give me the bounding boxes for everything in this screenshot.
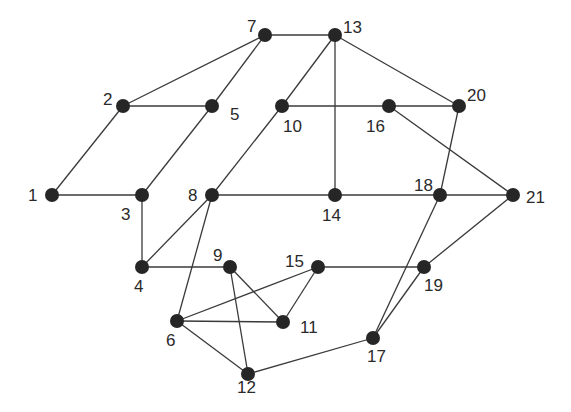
node-6 [170, 314, 184, 328]
edge-10-13 [282, 35, 335, 106]
node-label-21: 21 [526, 188, 545, 207]
edge-6-11 [177, 321, 283, 322]
node-label-12: 12 [237, 378, 256, 397]
node-label-1: 1 [28, 186, 37, 205]
node-7 [258, 28, 272, 42]
node-21 [506, 188, 520, 202]
node-8 [205, 188, 219, 202]
nodes-layer [45, 28, 520, 381]
edge-18-20 [440, 106, 459, 195]
edge-15-6 [177, 267, 318, 321]
node-4 [135, 260, 149, 274]
node-label-3: 3 [121, 205, 130, 224]
node-1 [45, 188, 59, 202]
node-18 [433, 188, 447, 202]
node-label-8: 8 [188, 186, 197, 205]
node-label-4: 4 [134, 277, 143, 296]
node-label-18: 18 [414, 176, 433, 195]
node-label-11: 11 [300, 318, 318, 337]
node-label-17: 17 [367, 347, 386, 366]
node-19 [417, 260, 431, 274]
node-label-9: 9 [213, 246, 222, 265]
edge-8-10 [212, 106, 282, 195]
node-14 [328, 188, 342, 202]
node-3 [135, 188, 149, 202]
edge-1-2 [52, 106, 123, 195]
edge-12-17 [248, 338, 373, 374]
node-2 [116, 99, 130, 113]
node-9 [223, 260, 237, 274]
node-15 [311, 260, 325, 274]
node-11 [276, 315, 290, 329]
node-label-19: 19 [424, 276, 443, 295]
node-5 [205, 99, 219, 113]
labels-layer: 123456789101112131415161718192021 [28, 17, 545, 397]
edge-13-20 [335, 35, 459, 106]
node-10 [275, 99, 289, 113]
node-label-13: 13 [343, 18, 362, 37]
edge-16-21 [389, 106, 513, 195]
edge-5-7 [212, 35, 265, 106]
node-label-2: 2 [103, 90, 112, 109]
edge-19-17 [373, 267, 424, 338]
node-label-6: 6 [166, 331, 175, 350]
edge-19-21 [424, 195, 513, 267]
node-label-5: 5 [230, 105, 239, 124]
node-label-14: 14 [322, 206, 341, 225]
node-16 [382, 99, 396, 113]
graph-diagram: 123456789101112131415161718192021 [0, 0, 571, 412]
node-label-10: 10 [283, 117, 302, 136]
node-20 [452, 99, 466, 113]
edge-3-5 [142, 106, 212, 195]
node-label-20: 20 [467, 86, 486, 105]
edge-2-7 [123, 35, 265, 106]
node-label-7: 7 [247, 17, 256, 36]
node-13 [328, 28, 342, 42]
edge-6-12 [177, 321, 248, 374]
node-label-15: 15 [285, 252, 304, 271]
node-label-16: 16 [366, 117, 385, 136]
edge-15-11 [283, 267, 318, 322]
node-17 [366, 331, 380, 345]
